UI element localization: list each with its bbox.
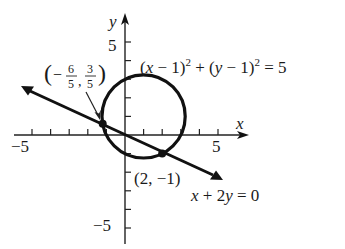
y-axis bbox=[121, 13, 131, 244]
line-curve bbox=[30, 91, 213, 175]
intersection-2-label: (2, −1) bbox=[134, 169, 180, 188]
intersection-1-label: ( − 6 5 , 3 5 ) bbox=[44, 60, 106, 91]
fraction-1-num: 6 bbox=[68, 62, 74, 76]
svg-text:): ) bbox=[98, 60, 106, 86]
graph-figure: y 5 x 5 −5 −5 ( − 6 5 , 3 5 ) (2, −1) (x… bbox=[0, 0, 345, 249]
intersection-point-2 bbox=[158, 150, 166, 158]
x-tick-label-neg5: −5 bbox=[11, 137, 29, 156]
y-axis-label: y bbox=[107, 12, 117, 31]
svg-text:(: ( bbox=[44, 60, 52, 86]
x-axis-label: x bbox=[235, 114, 244, 133]
graph-canvas: y 5 x 5 −5 −5 ( − 6 5 , 3 5 ) (2, −1) (x… bbox=[0, 0, 345, 249]
fraction-2-num: 3 bbox=[87, 62, 93, 76]
intersection-point-1 bbox=[99, 120, 107, 128]
fraction-2-den: 5 bbox=[87, 77, 93, 91]
y-tick-label-5: 5 bbox=[108, 36, 117, 55]
y-tick-label-neg5: −5 bbox=[93, 216, 111, 235]
fraction-1-den: 5 bbox=[68, 77, 74, 91]
label-minus: − bbox=[53, 66, 62, 83]
x-tick-label-5: 5 bbox=[212, 137, 221, 156]
circle-equation: (x − 1)2 + (y − 1)2 = 5 bbox=[140, 56, 287, 77]
circle-curve bbox=[102, 75, 185, 158]
line-equation: x + 2y = 0 bbox=[190, 186, 259, 205]
label-comma: , bbox=[78, 74, 82, 89]
